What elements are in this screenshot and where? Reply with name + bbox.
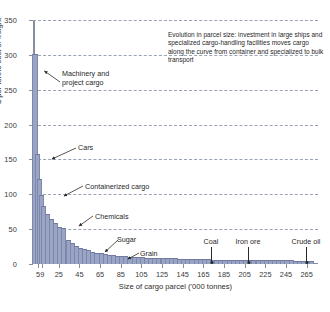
x-axis-tick-label: 145 <box>177 270 189 279</box>
x-axis-tick <box>224 264 225 268</box>
y-axis-tick-label: 100 <box>0 190 17 199</box>
pointer-coal-dot <box>210 261 213 264</box>
y-axis-tick-label: 150 <box>0 155 17 164</box>
x-axis-tick-label: 165 <box>197 270 209 279</box>
y-axis-tick-label: 350 <box>0 16 17 25</box>
bar <box>309 261 314 264</box>
pointer-crude-oil-line <box>306 247 307 262</box>
callout-machinery: Machinery and project cargo <box>62 70 109 87</box>
y-axis-tick <box>29 20 33 21</box>
pointer-coal-line <box>211 247 212 262</box>
gridline <box>33 125 318 126</box>
x-axis-tick-label: 245 <box>280 270 292 279</box>
x-axis-tick <box>265 264 266 268</box>
x-axis-tick-label: 85 <box>117 270 125 279</box>
x-axis-tick-label: 25 <box>55 270 63 279</box>
callout-grain: Grain <box>140 250 158 259</box>
x-axis-tick-label: 9 <box>40 270 44 279</box>
x-axis-tick-label: 205 <box>239 270 251 279</box>
gridline <box>33 20 318 21</box>
pointer-iron-ore-dot <box>247 261 250 264</box>
plot-area: 0501001502002503003505925456585105125145… <box>33 20 318 264</box>
callout-cars: Cars <box>78 144 93 153</box>
gridline <box>33 90 318 91</box>
x-axis-tick <box>59 264 60 268</box>
x-axis-tick <box>141 264 142 268</box>
y-axis-tick-label: 250 <box>0 85 17 94</box>
x-axis-tick <box>42 264 43 268</box>
callout-containerized-cargo: Containerized cargo <box>85 183 149 192</box>
y-axis-tick <box>29 264 33 265</box>
pointer-iron-ore-line <box>248 247 249 262</box>
x-axis-tick <box>162 264 163 268</box>
x-axis-tick-label: 45 <box>75 270 83 279</box>
x-axis-tick-label: 265 <box>300 270 312 279</box>
x-axis-tick-label: 185 <box>218 270 230 279</box>
pointer-coal-label: Coal <box>204 237 219 246</box>
y-axis-tick-label: 300 <box>0 50 17 59</box>
x-axis-tick-label: 125 <box>156 270 168 279</box>
x-axis-tick <box>203 264 204 268</box>
freight-cost-bar-chart: Evolution in parcel size: investment in … <box>0 0 330 312</box>
y-axis-tick-label: 50 <box>0 225 17 234</box>
callout-chemicals: Chemicals <box>95 213 129 222</box>
x-axis-tick-label: 105 <box>135 270 147 279</box>
gridline <box>33 55 318 56</box>
y-axis-tick-label: 0 <box>0 260 17 269</box>
gridline <box>33 229 318 230</box>
x-axis-tick <box>79 264 80 268</box>
x-axis-tick-label: 225 <box>259 270 271 279</box>
callout-machinery-line2: project cargo <box>62 79 109 88</box>
x-axis-tick <box>38 264 39 268</box>
pointer-crude-oil-label: Crude oil <box>292 237 321 246</box>
y-axis-tick-label: 200 <box>0 120 17 129</box>
x-axis-title: Size of cargo parcel ('000 tonnes) <box>33 282 318 291</box>
pointer-iron-ore-label: Iron ore <box>236 237 261 246</box>
gridline <box>33 194 318 195</box>
x-axis-tick <box>100 264 101 268</box>
x-axis-tick <box>245 264 246 268</box>
x-axis-tick-label: 65 <box>96 270 104 279</box>
gridline <box>33 159 318 160</box>
x-axis-tick <box>286 264 287 268</box>
x-axis-tick <box>307 264 308 268</box>
x-axis-tick <box>183 264 184 268</box>
callout-sugar: Sugar <box>117 236 136 245</box>
x-axis-tick <box>121 264 122 268</box>
pointer-crude-oil-dot <box>305 261 308 264</box>
